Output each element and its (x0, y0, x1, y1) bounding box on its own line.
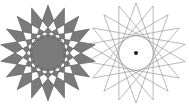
filled-star-polygon (1, 5, 96, 101)
center-dot (134, 51, 138, 55)
star-polygons-diagram (0, 0, 189, 107)
